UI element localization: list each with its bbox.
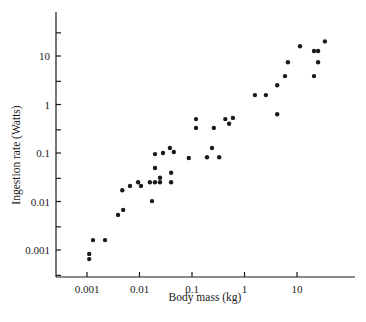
data-point: [153, 166, 157, 170]
data-point: [91, 238, 95, 242]
x-tick-label: 1: [242, 283, 248, 295]
data-point: [316, 60, 320, 64]
data-point: [223, 117, 227, 121]
y-tick-label: 0.01: [31, 196, 50, 208]
data-point: [128, 184, 132, 188]
y-tick-label: 0.1: [36, 147, 50, 159]
data-point: [316, 49, 320, 53]
data-point: [148, 180, 152, 184]
data-point: [158, 180, 162, 184]
data-point: [169, 171, 173, 175]
data-point: [103, 238, 107, 242]
data-point: [283, 74, 287, 78]
data-point: [312, 49, 316, 53]
data-point: [323, 39, 327, 43]
data-point: [136, 180, 140, 184]
data-point: [87, 252, 91, 256]
data-point: [120, 188, 124, 192]
data-point: [139, 184, 143, 188]
data-point: [264, 93, 268, 97]
x-axis-label: Body mass (kg): [169, 291, 242, 304]
data-point: [231, 116, 235, 120]
data-points: [87, 39, 327, 261]
data-point: [121, 208, 125, 212]
data-point: [205, 155, 209, 159]
data-point: [212, 126, 216, 130]
data-point: [187, 156, 191, 160]
data-point: [194, 126, 198, 130]
x-tick-label: 0.01: [130, 283, 149, 295]
data-point: [116, 213, 120, 217]
data-point: [153, 180, 157, 184]
y-tick-label: 0.001: [25, 244, 50, 256]
data-point: [275, 83, 279, 87]
data-point: [158, 176, 162, 180]
y-tick-label: 10: [39, 50, 51, 62]
axes: [56, 12, 355, 277]
y-axis-label: Ingestion rate (Watts): [10, 105, 23, 205]
scatter-chart: 0.0010.010.1110 0.0010.010.1110 Body mas…: [0, 0, 366, 322]
data-point: [87, 257, 91, 261]
x-tick-label: 10: [292, 283, 304, 295]
data-point: [172, 150, 176, 154]
data-point: [150, 199, 154, 203]
data-point: [168, 146, 172, 150]
data-point: [286, 60, 290, 64]
x-tick-label: 0.001: [75, 283, 100, 295]
data-point: [194, 117, 198, 121]
y-tick-label: 1: [45, 99, 51, 111]
data-point: [275, 112, 279, 116]
data-point: [161, 151, 165, 155]
data-point: [217, 155, 221, 159]
data-point: [169, 180, 173, 184]
data-point: [227, 122, 231, 126]
data-point: [298, 44, 302, 48]
data-point: [153, 152, 157, 156]
data-point: [210, 146, 214, 150]
data-point: [312, 74, 316, 78]
data-point: [253, 93, 257, 97]
